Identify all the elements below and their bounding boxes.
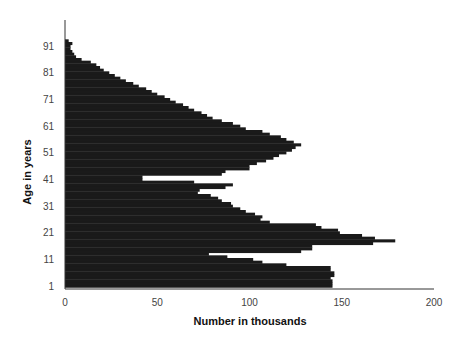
age-bar [65, 151, 286, 154]
age-bar [65, 210, 246, 213]
age-bar [65, 47, 71, 50]
age-bar [65, 282, 333, 285]
y-tick-label: 91 [43, 41, 55, 52]
age-bar [65, 61, 91, 64]
y-tick-label: 1 [48, 281, 54, 292]
age-bar [65, 237, 375, 240]
age-bar [65, 271, 334, 274]
age-bar [65, 82, 133, 85]
age-bar [65, 173, 222, 176]
age-bar [65, 223, 316, 226]
age-bar [65, 197, 218, 200]
age-bar [65, 122, 233, 125]
y-tick-label: 41 [43, 174, 55, 185]
age-bar [65, 279, 333, 282]
y-tick-label: 31 [43, 201, 55, 212]
age-bar [65, 98, 170, 101]
y-tick-label: 21 [43, 227, 55, 238]
y-axis-title: Age in years [21, 139, 33, 204]
age-bar [65, 103, 183, 106]
age-bar [65, 42, 72, 45]
age-bar [65, 74, 115, 77]
age-bar [65, 58, 82, 61]
y-tick-label: 11 [44, 254, 55, 265]
age-bar [65, 181, 194, 184]
age-bar [65, 130, 262, 133]
population-chart: 050100150200 1112131415161718191 Number … [0, 0, 459, 340]
age-bar [65, 186, 226, 189]
x-tick-label: 100 [241, 297, 258, 308]
age-bar [65, 111, 202, 114]
y-tick-label: 51 [43, 147, 55, 158]
age-bar [65, 71, 109, 74]
age-bar [65, 274, 334, 277]
age-bar [65, 162, 257, 165]
age-bar [65, 53, 74, 56]
age-bar [65, 178, 142, 181]
x-tick-labels: 050100150200 [62, 297, 443, 308]
age-bar [65, 170, 226, 173]
age-bar [65, 189, 200, 192]
y-tick-label: 81 [43, 67, 55, 78]
age-bar [65, 167, 250, 170]
age-bar [65, 253, 209, 256]
age-bar [65, 266, 331, 269]
age-bar [65, 90, 152, 93]
y-tick-label: 71 [43, 94, 55, 105]
age-bar [65, 159, 266, 162]
age-bar [65, 125, 240, 128]
y-tick-labels: 1112131415161718191 [43, 41, 55, 292]
age-bar [65, 79, 126, 82]
age-bar [65, 106, 189, 109]
age-bar [65, 221, 270, 224]
age-bar [65, 183, 233, 186]
age-bar [65, 213, 255, 216]
age-bar [65, 165, 250, 168]
age-bar [65, 119, 222, 122]
age-bar [65, 55, 76, 58]
age-bar [65, 242, 373, 245]
x-tick-label: 200 [426, 297, 443, 308]
age-bar [65, 269, 331, 272]
age-bar [65, 175, 142, 178]
age-bar [65, 143, 301, 146]
x-tick-label: 0 [62, 297, 68, 308]
age-bar [65, 39, 69, 42]
age-bar [65, 258, 253, 261]
age-bar [65, 146, 296, 149]
age-bar [65, 77, 120, 80]
age-bar [65, 199, 222, 202]
age-bar [65, 277, 331, 280]
age-bar [65, 261, 262, 264]
y-tick-label: 61 [43, 121, 55, 132]
age-bar [65, 285, 333, 288]
x-tick-label: 50 [152, 297, 164, 308]
age-bar [65, 141, 294, 144]
x-axis-title: Number in thousands [193, 315, 306, 327]
age-bar [65, 226, 321, 229]
age-bar [65, 263, 286, 266]
age-bar [65, 231, 340, 234]
age-bar [65, 205, 233, 208]
age-bar [65, 66, 100, 69]
age-bar [65, 138, 286, 141]
age-bar [65, 202, 231, 205]
age-bar [65, 191, 198, 194]
age-bars [65, 39, 395, 287]
age-bar [65, 133, 270, 136]
age-bar [65, 154, 279, 157]
age-bar [65, 157, 273, 160]
age-bar [65, 69, 104, 72]
age-bar [65, 114, 207, 117]
age-bar [65, 234, 362, 237]
x-tick-label: 150 [333, 297, 350, 308]
age-bar [65, 109, 194, 112]
age-bar [65, 63, 96, 66]
age-bar [65, 194, 211, 197]
age-bar [65, 101, 176, 104]
age-bar [65, 127, 246, 130]
age-bar [65, 207, 240, 210]
age-bar [65, 229, 338, 232]
age-bar [65, 245, 312, 248]
age-bar [65, 218, 261, 221]
